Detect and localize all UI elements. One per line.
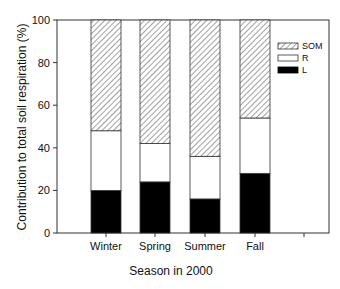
bar-segment-r-fall <box>240 118 270 173</box>
x-tick-label-spring: Spring <box>139 240 171 252</box>
y-tick-label: 40 <box>38 142 50 154</box>
bar-segment-som-fall <box>240 20 270 118</box>
bar-segment-r-spring <box>140 144 170 182</box>
y-tick-label: 80 <box>38 57 50 69</box>
bar-segment-som-winter <box>91 20 121 131</box>
legend-label-som: SOM <box>302 41 323 51</box>
bar-segment-r-summer <box>190 156 220 199</box>
y-axis-title: Contribution to total soil respiration (… <box>15 24 29 231</box>
legend-label-r: R <box>302 53 309 63</box>
legend-swatch-r <box>278 55 298 61</box>
x-axis: WinterSpringSummerFall <box>90 233 304 252</box>
bar-segment-l-winter <box>91 190 121 233</box>
legend-swatch-l <box>278 67 298 73</box>
x-axis-title: Season in 2000 <box>129 264 213 278</box>
bar-segment-l-spring <box>140 182 170 233</box>
legend: SOM R L <box>278 41 323 75</box>
bar-segment-r-winter <box>91 131 121 191</box>
bar-segment-som-spring <box>140 20 170 144</box>
stacked-bar-chart: 020406080100 WinterSpringSummerFall SOM … <box>0 0 340 289</box>
y-tick-label: 100 <box>32 14 50 26</box>
y-axis: 020406080100 <box>32 14 57 239</box>
x-tick-label-summer: Summer <box>184 240 226 252</box>
legend-label-l: L <box>302 65 307 75</box>
bar-segment-som-summer <box>190 20 220 156</box>
bar-segment-l-summer <box>190 199 220 233</box>
y-tick-label: 60 <box>38 99 50 111</box>
bars-group <box>91 20 270 233</box>
x-tick-label-winter: Winter <box>90 240 122 252</box>
x-tick-label-fall: Fall <box>246 240 264 252</box>
y-tick-label: 0 <box>44 227 50 239</box>
bar-segment-l-fall <box>240 173 270 233</box>
legend-swatch-som <box>278 43 298 49</box>
y-tick-label: 20 <box>38 184 50 196</box>
